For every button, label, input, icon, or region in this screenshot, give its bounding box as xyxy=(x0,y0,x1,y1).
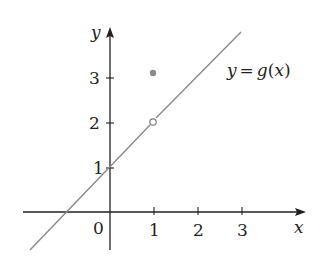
function-line-lower xyxy=(30,125,150,250)
graph-canvas: y x 0 1 2 3 1 2 3 y=g(x) xyxy=(0,0,328,267)
y-tick-label-2: 2 xyxy=(89,113,100,133)
function-label: y=g(x) xyxy=(226,60,291,80)
filled-point xyxy=(150,70,156,76)
x-axis-label: x xyxy=(294,217,304,237)
y-axis-label: y xyxy=(90,22,101,42)
hole-point xyxy=(150,119,156,125)
x-tick-label-1: 1 xyxy=(149,220,160,240)
y-tick-label-1: 1 xyxy=(93,158,104,178)
y-tick-label-3: 3 xyxy=(89,68,100,88)
origin-label: 0 xyxy=(93,218,104,238)
x-tick-label-2: 2 xyxy=(193,220,204,240)
x-tick-label-3: 3 xyxy=(237,220,248,240)
